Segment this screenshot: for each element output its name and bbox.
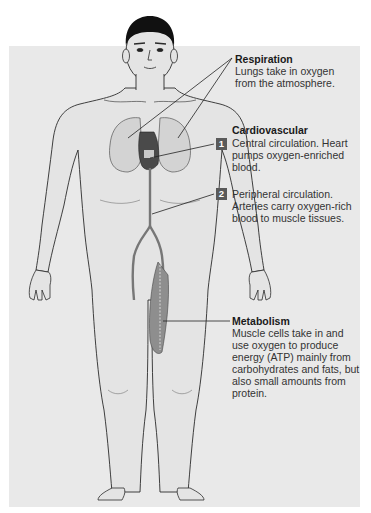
- metabolism-text: Muscle cells take in and use oxygen to p…: [232, 327, 360, 399]
- heart: [139, 132, 159, 170]
- respiration-title: Respiration: [235, 53, 355, 65]
- peripheral-circulation-text: Peripheral circulation. Arteries carry o…: [232, 188, 354, 224]
- metabolism-title: Metabolism: [232, 315, 360, 327]
- cardiovascular-title-block: Cardiovascular: [232, 124, 357, 136]
- cardiovascular-title: Cardiovascular: [232, 124, 357, 136]
- feet: [98, 488, 204, 500]
- step-2-badge: 2: [216, 188, 227, 200]
- central-circulation-text: Central circulation. Heart pumps oxygen-…: [232, 137, 357, 173]
- central-circulation-label: Central circulation. Heart pumps oxygen-…: [232, 137, 357, 173]
- respiration-text: Lungs take in oxygen from the atmosphere…: [235, 65, 355, 89]
- respiration-label: Respiration Lungs take in oxygen from th…: [235, 53, 355, 89]
- metabolism-label: Metabolism Muscle cells take in and use …: [232, 315, 360, 399]
- body-outline: [36, 22, 264, 492]
- step-1-badge: 1: [216, 138, 227, 150]
- peripheral-circulation-label: Peripheral circulation. Arteries carry o…: [232, 188, 354, 224]
